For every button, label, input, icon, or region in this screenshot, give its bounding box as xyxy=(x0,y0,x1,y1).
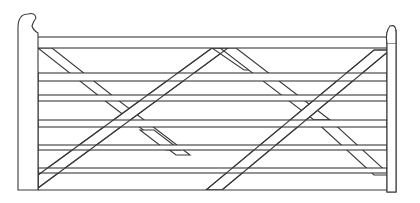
rail-6 xyxy=(38,168,387,173)
gate-drawing xyxy=(0,0,420,203)
left-post xyxy=(18,14,38,191)
top-rail xyxy=(33,37,389,48)
rail-2 xyxy=(38,73,387,81)
rail-4 xyxy=(38,120,387,127)
right-post-cap xyxy=(386,26,396,43)
right-post-body xyxy=(387,43,396,192)
